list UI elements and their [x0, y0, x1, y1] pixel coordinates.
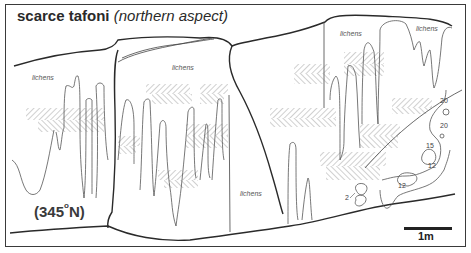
block-edge-right — [230, 46, 283, 214]
contour-value: 15 — [426, 142, 434, 149]
contour-value: 12 — [428, 162, 436, 169]
lichens-label: lichens — [416, 25, 438, 32]
lichens-label: lichens — [240, 190, 262, 197]
contour-value: 20 — [440, 97, 448, 104]
title-bold: scarce tafoni — [17, 7, 110, 24]
contour-value: 2 — [345, 194, 349, 201]
block-edge-left — [108, 50, 118, 228]
contour-value: 12 — [398, 182, 406, 189]
scale-label: 1m — [418, 230, 434, 242]
aspect-label: (345oN) — [34, 201, 85, 220]
title-italic: (northern aspect) — [114, 7, 228, 24]
diagram-title: scarce tafoni (northern aspect) — [17, 7, 228, 24]
contour-value: 20 — [440, 122, 448, 129]
lichens-label: lichens — [32, 74, 54, 81]
lichens-label: lichens — [340, 30, 362, 37]
lichens-label: lichens — [172, 64, 194, 71]
